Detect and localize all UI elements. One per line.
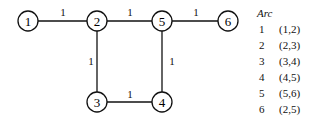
arc-table: Arc 1(1,2) 2(2,3) 3(3,4) 4(4,5) 5(5,6) 6… <box>257 5 300 117</box>
arc-row: 2(2,3) <box>257 37 300 53</box>
arc-pair: (2,5) <box>279 101 300 117</box>
arc-number: 4 <box>257 69 279 85</box>
arc-number: 2 <box>257 37 279 53</box>
node-3: 3 <box>87 92 107 112</box>
node-5: 5 <box>152 11 172 31</box>
weight-2-5: 1 <box>127 6 133 18</box>
arc-row: 1(1,2) <box>257 21 300 37</box>
arc-row: 3(3,4) <box>257 53 300 69</box>
weight-3-4: 1 <box>127 88 133 100</box>
svg-text:1: 1 <box>25 14 32 29</box>
arc-row: 5(5,6) <box>257 85 300 101</box>
weight-1-2: 1 <box>60 6 66 18</box>
arc-number: 3 <box>257 53 279 69</box>
arc-number: 5 <box>257 85 279 101</box>
arc-table-title: Arc <box>257 5 300 21</box>
weight-2-3: 1 <box>88 55 94 67</box>
edge-weights: 1 1 1 1 1 1 <box>60 6 199 100</box>
svg-text:4: 4 <box>159 95 166 110</box>
node-1: 1 <box>18 11 38 31</box>
arc-number: 1 <box>257 21 279 37</box>
svg-text:3: 3 <box>94 95 101 110</box>
arc-pair: (5,6) <box>279 85 300 101</box>
node-2: 2 <box>87 11 107 31</box>
arc-number: 6 <box>257 101 279 117</box>
arc-row: 6(2,5) <box>257 101 300 117</box>
arc-pair: (4,5) <box>279 69 300 85</box>
svg-text:6: 6 <box>225 14 232 29</box>
weight-5-6: 1 <box>193 6 199 18</box>
arc-row: 4(4,5) <box>257 69 300 85</box>
arc-pair: (2,3) <box>279 37 300 53</box>
svg-text:5: 5 <box>159 14 166 29</box>
svg-text:2: 2 <box>94 14 101 29</box>
node-6: 6 <box>218 11 238 31</box>
weight-5-4: 1 <box>169 55 175 67</box>
node-4: 4 <box>152 92 172 112</box>
arc-pair: (3,4) <box>279 53 300 69</box>
arc-pair: (1,2) <box>279 21 300 37</box>
